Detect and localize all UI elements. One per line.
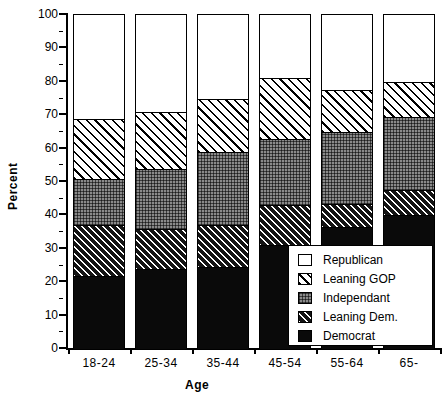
legend-swatch-democrat <box>298 330 312 342</box>
legend-label: Leaning Dem. <box>323 311 398 323</box>
y-minor-tick-mark <box>59 198 63 199</box>
y-tick-label-wrap: 100 <box>24 8 58 20</box>
legend-item-independant: Independant <box>289 289 432 307</box>
legend-item-democrat: Democrat <box>289 327 432 345</box>
y-tick-mark <box>59 347 66 349</box>
bar-segment-leaning-dem <box>384 190 434 215</box>
y-minor-tick-mark <box>59 265 63 266</box>
y-tick-label-wrap: 20 <box>24 275 58 287</box>
y-tick-mark <box>59 46 66 48</box>
legend-swatch-independant <box>298 292 312 304</box>
legend-label: Republican <box>323 254 383 266</box>
x-tick-mark <box>378 348 380 354</box>
bar-18-24 <box>73 14 125 348</box>
bar-segment-leaning-gop <box>384 82 434 117</box>
legend: RepublicanLeaning GOPIndependantLeaning … <box>288 245 433 346</box>
y-minor-tick-mark <box>59 131 63 132</box>
bar-segment-leaning-gop <box>136 112 186 169</box>
y-tick-mark <box>59 314 66 316</box>
bar-segment-leaning-dem <box>198 225 248 267</box>
x-tick-mark <box>130 348 132 354</box>
y-tick-label-wrap: 10 <box>24 309 58 321</box>
legend-item-leaning-dem: Leaning Dem. <box>289 308 432 326</box>
bar-segment-republican <box>136 15 186 112</box>
x-tick-mark <box>440 348 442 354</box>
bar-segment-republican <box>384 15 434 82</box>
x-tick-mark <box>254 348 256 354</box>
y-tick-label-wrap: 30 <box>24 242 58 254</box>
y-minor-tick-mark <box>59 98 63 99</box>
bar-segment-leaning-gop <box>198 99 248 152</box>
bar-segment-republican <box>198 15 248 99</box>
y-tick-mark <box>59 180 66 182</box>
y-tick-label-wrap: 40 <box>24 208 58 220</box>
legend-label: Democrat <box>323 330 375 342</box>
legend-swatch-leaning-dem <box>298 311 312 323</box>
legend-label: Leaning GOP <box>323 273 396 285</box>
bar-segment-democrat <box>136 269 186 349</box>
y-tick-mark <box>59 80 66 82</box>
bar-segment-democrat <box>198 267 248 349</box>
y-tick-label-wrap: 60 <box>24 142 58 154</box>
y-tick-mark <box>59 13 66 15</box>
bar-segment-leaning-gop <box>322 90 372 132</box>
y-tick-label-wrap: 70 <box>24 108 58 120</box>
bar-segment-independant <box>198 152 248 225</box>
y-tick-mark <box>59 247 66 249</box>
bar-segment-independant <box>384 117 434 190</box>
y-tick-label: 0 <box>24 342 58 354</box>
y-minor-tick-mark <box>59 64 63 65</box>
x-tick-mark <box>316 348 318 354</box>
y-tick-label: 30 <box>24 242 58 254</box>
bar-segment-leaning-gop <box>74 119 124 179</box>
stacked-bar-chart: Percent Age 0102030405060708090100 18-24… <box>0 0 446 405</box>
bar-segment-leaning-dem <box>322 204 372 227</box>
x-tick-mark <box>68 348 70 354</box>
x-axis-title: Age <box>185 378 209 392</box>
y-tick-label: 10 <box>24 309 58 321</box>
bar-segment-leaning-dem <box>260 205 310 245</box>
y-minor-tick-mark <box>59 231 63 232</box>
bar-segment-independant <box>74 179 124 226</box>
y-tick-label-wrap: 0 <box>24 342 58 354</box>
y-tick-label: 60 <box>24 142 58 154</box>
x-tick-label-65-: 65- <box>369 356 446 370</box>
bar-35-44 <box>197 14 249 348</box>
y-axis-title: Percent <box>2 131 24 241</box>
bar-segment-republican <box>322 15 372 90</box>
y-tick-label: 40 <box>24 208 58 220</box>
y-tick-mark <box>59 147 66 149</box>
y-tick-mark <box>59 113 66 115</box>
y-minor-tick-mark <box>59 31 63 32</box>
legend-label: Independant <box>323 292 390 304</box>
bar-segment-leaning-gop <box>260 78 310 138</box>
y-axis-line <box>66 13 68 350</box>
y-tick-label: 90 <box>24 41 58 53</box>
y-tick-mark <box>59 213 66 215</box>
y-tick-mark <box>59 280 66 282</box>
x-tick-mark <box>192 348 194 354</box>
legend-item-republican: Republican <box>289 251 432 269</box>
legend-swatch-republican <box>298 254 312 266</box>
y-tick-label: 50 <box>24 175 58 187</box>
bar-25-34 <box>135 14 187 348</box>
y-tick-label: 70 <box>24 108 58 120</box>
y-minor-tick-mark <box>59 164 63 165</box>
bar-segment-leaning-dem <box>136 229 186 269</box>
y-tick-label-wrap: 80 <box>24 75 58 87</box>
legend-item-leaning-gop: Leaning GOP <box>289 270 432 288</box>
y-tick-label: 80 <box>24 75 58 87</box>
bar-segment-republican <box>74 15 124 119</box>
y-tick-label-wrap: 50 <box>24 175 58 187</box>
y-minor-tick-mark <box>59 331 63 332</box>
y-tick-label: 100 <box>24 8 58 20</box>
bar-segment-independant <box>260 139 310 206</box>
y-tick-label: 20 <box>24 275 58 287</box>
bar-segment-independant <box>322 132 372 204</box>
legend-swatch-leaning-gop <box>298 273 312 285</box>
bar-segment-independant <box>136 169 186 229</box>
bar-segment-leaning-dem <box>74 225 124 275</box>
bar-segment-republican <box>260 15 310 78</box>
y-minor-tick-mark <box>59 298 63 299</box>
bar-segment-democrat <box>74 276 124 349</box>
